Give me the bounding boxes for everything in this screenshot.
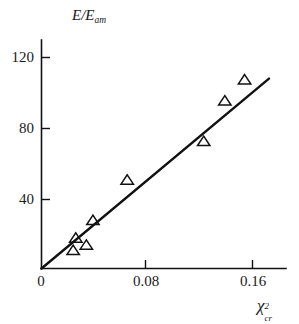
y-axis-title-denominator: E [85,7,94,23]
y-tick-label-80: 80 [4,121,34,136]
y-tick-marks [42,58,51,200]
x-tick-label-008: 0.08 [124,274,168,289]
x-axis-title-subscript: cr [264,314,272,323]
y-axis-title-subscript: am [95,15,107,25]
axes-group [41,40,286,269]
x-tick-label-0: 0 [27,274,55,289]
x-axis-title-symbol: χ [257,296,264,315]
y-axis-title: E/Eam [72,8,106,25]
y-tick-label-120: 120 [4,50,34,65]
y-axis-title-numerator: E [72,7,81,23]
x-axis-title-superscript: 2 [264,302,269,311]
data-point-marker [121,175,133,184]
x-tick-label-016: 0.16 [231,274,275,289]
fit-line [42,79,269,269]
x-axis-title: χ2cr [257,297,264,314]
x-tick-marks [146,260,253,269]
data-point-marker [238,75,250,84]
data-point-marker [219,96,231,105]
data-markers-group [67,75,251,255]
chart-figure: 120 80 40 0 0.08 0.16 E/Eam χ2cr [0,0,299,324]
fit-line-group [42,79,269,269]
y-tick-label-40: 40 [4,192,34,207]
